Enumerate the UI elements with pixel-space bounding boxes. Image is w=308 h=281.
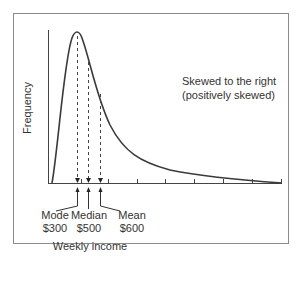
y-axis-label: Frequency	[21, 82, 33, 134]
marker-label-arrows	[56, 189, 120, 211]
x-axis-label: Weekly income	[45, 240, 135, 253]
marker-label-arrowheads-up	[76, 187, 103, 192]
distribution-curve	[52, 32, 282, 183]
marker-arrowheads-down	[75, 178, 103, 183]
median-label: Median	[68, 209, 110, 222]
median-value: $500	[68, 222, 110, 235]
skewed-distribution-plot	[0, 0, 308, 281]
skew-annotation-line2: (positively skewed)	[182, 89, 275, 102]
skew-annotation-line1: Skewed to the right	[182, 75, 276, 88]
marker-dashed-lines	[78, 36, 101, 180]
mean-label: Mean	[112, 209, 152, 222]
mean-value: $600	[112, 222, 152, 235]
